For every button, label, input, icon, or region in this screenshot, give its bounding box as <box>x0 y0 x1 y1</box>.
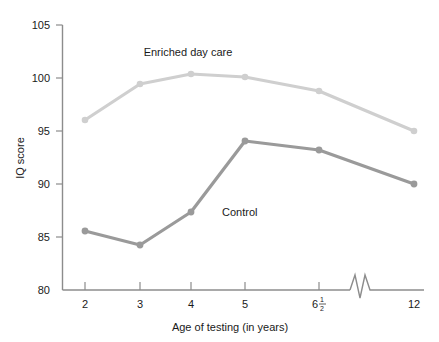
y-tick-label-85: 85 <box>38 231 50 243</box>
x-tick-label-4: 4 <box>188 298 194 310</box>
enriched-point-4 <box>188 71 195 78</box>
control-point-3 <box>137 242 144 249</box>
series-control <box>82 138 418 249</box>
axis-group <box>63 25 425 298</box>
enriched-point-3 <box>137 81 144 88</box>
enriched-point-2 <box>82 117 89 124</box>
series-annotation-enriched-day-care: Enriched day care <box>144 46 233 58</box>
series-annotation-control: Control <box>222 206 257 218</box>
control-line <box>85 141 414 245</box>
x-tick-label-6-numerator: 1 <box>320 296 324 303</box>
enriched-point-6-5 <box>316 88 323 95</box>
x-tick-label-6-whole: 6 <box>312 298 318 310</box>
chart-canvas: 105 100 95 90 85 80 2 3 4 5 6 1 <box>0 0 439 342</box>
iq-score-line-chart: 105 100 95 90 85 80 2 3 4 5 6 1 <box>0 0 439 342</box>
control-point-12 <box>411 181 418 188</box>
y-tick-label-105: 105 <box>32 19 50 31</box>
y-tick-label-95: 95 <box>38 125 50 137</box>
x-tick-label-6-and-half: 6 1 2 <box>312 296 326 312</box>
x-axis-title: Age of testing (in years) <box>172 321 288 333</box>
y-tick-labels: 105 100 95 90 85 80 <box>32 19 50 296</box>
y-tick-label-80: 80 <box>38 284 50 296</box>
enriched-point-12 <box>411 128 418 135</box>
x-tick-labels: 2 3 4 5 6 1 2 12 <box>82 296 420 312</box>
y-axis-title: IQ score <box>14 137 26 179</box>
x-tick-label-6-denominator: 2 <box>320 305 324 312</box>
x-tick-label-5: 5 <box>242 298 248 310</box>
x-axis-break-zigzag <box>350 275 374 298</box>
enriched-point-5 <box>242 74 249 81</box>
x-tick-group <box>85 282 319 290</box>
y-tick-label-100: 100 <box>32 72 50 84</box>
control-point-5 <box>242 138 249 145</box>
control-point-2 <box>82 228 89 235</box>
x-tick-label-3: 3 <box>137 298 143 310</box>
series-enriched-day-care <box>82 71 418 135</box>
enriched-day-care-line <box>85 74 414 131</box>
y-tick-label-90: 90 <box>38 178 50 190</box>
control-point-6-5 <box>316 147 323 154</box>
x-tick-label-12: 12 <box>408 298 420 310</box>
y-tick-group <box>56 25 63 237</box>
control-point-4 <box>188 209 195 216</box>
x-tick-label-2: 2 <box>82 298 88 310</box>
